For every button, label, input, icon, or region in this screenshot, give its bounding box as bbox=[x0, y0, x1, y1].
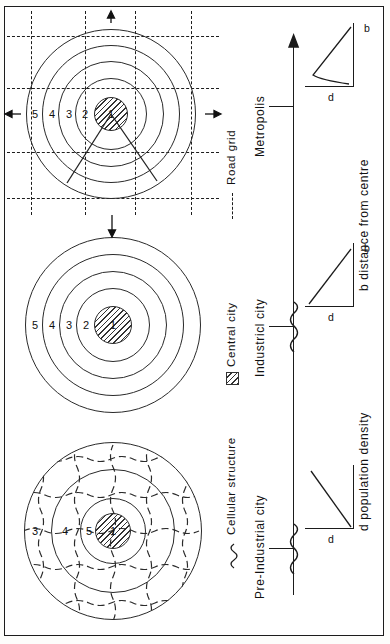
inset-curve bbox=[305, 13, 359, 87]
wavy-line-icon bbox=[227, 539, 241, 569]
inset-y-label: d bbox=[328, 311, 334, 323]
axis-caption-distance: b distance from centre bbox=[357, 159, 371, 291]
axis-caption-density: d population density bbox=[357, 412, 371, 531]
diagram-pre-industrial: 1 5 4 3 bbox=[9, 433, 217, 629]
caption-pre-industrial-city: Pre-Industrial city bbox=[253, 495, 267, 599]
axis-break-2-icon bbox=[287, 301, 301, 353]
legend-label-central-city: Central city bbox=[225, 302, 237, 367]
figure-border: 1 5 4 3 1 2 3 4 5 bbox=[4, 6, 384, 636]
diagram-industrial: 1 2 3 4 5 bbox=[9, 227, 217, 423]
rotated-figure-canvas: 1 5 4 3 1 2 3 4 5 bbox=[5, 7, 383, 635]
ring-label-5: 5 bbox=[32, 320, 38, 331]
caption-metropolis: Metropolis bbox=[253, 96, 267, 157]
inset-x-label: b bbox=[364, 22, 370, 34]
pre-industrial-rings: 1 5 4 3 bbox=[9, 433, 217, 629]
legend-label-road-grid: Road grid bbox=[225, 130, 237, 185]
ring-label-3: 3 bbox=[32, 526, 38, 537]
caption-industrial-city: Industricl city bbox=[253, 299, 267, 377]
ring-label-1: 1 bbox=[110, 526, 116, 537]
inset-pre-industrial: d bbox=[305, 455, 359, 529]
inset-y-label: d bbox=[328, 533, 334, 545]
ring-label-2: 2 bbox=[83, 320, 89, 331]
inset-curve bbox=[305, 455, 359, 529]
inset-metropolis: d b bbox=[305, 13, 359, 87]
axis-tick-metropolis bbox=[269, 106, 293, 107]
ring-label-4: 4 bbox=[62, 526, 68, 537]
legend-label-cellular-structure: Cellular structure bbox=[225, 437, 237, 535]
inset-industrial: d b bbox=[305, 233, 359, 307]
axis-break-1-icon bbox=[287, 523, 301, 575]
ring-label-5: 5 bbox=[86, 526, 92, 537]
axis-arrowhead-icon bbox=[286, 25, 302, 51]
ring-label-1: 1 bbox=[110, 320, 116, 331]
inset-y-label: d bbox=[328, 91, 334, 103]
industrial-rings: 1 2 3 4 5 bbox=[9, 227, 217, 423]
diagram-metropolis: 1 2 3 4 5 bbox=[5, 11, 221, 219]
hatched-box-icon bbox=[226, 372, 239, 385]
inset-curve bbox=[305, 233, 359, 307]
dashed-line-icon bbox=[232, 193, 233, 219]
growth-arrow-left bbox=[103, 213, 121, 237]
ring-label-3: 3 bbox=[66, 320, 72, 331]
ring-label-4: 4 bbox=[49, 320, 55, 331]
growth-arrows bbox=[5, 11, 221, 219]
figure-page: 1 5 4 3 1 2 3 4 5 bbox=[0, 0, 390, 644]
